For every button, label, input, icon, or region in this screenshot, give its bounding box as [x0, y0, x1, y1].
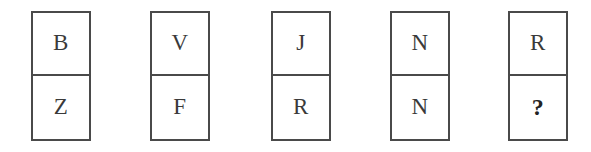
domino-card-1: B Z	[31, 11, 91, 141]
card-2-top-letter: V	[171, 31, 188, 54]
domino-card-2: V F	[150, 11, 210, 141]
card-4-top-letter: N	[411, 31, 428, 54]
card-5-top-cell: R	[510, 13, 566, 76]
card-1-top-cell: B	[33, 13, 89, 76]
card-5-unknown-marker: ?	[532, 95, 545, 119]
domino-card-5: R ?	[508, 11, 568, 141]
card-4-bottom-letter: N	[411, 95, 428, 118]
card-5-top-letter: R	[530, 31, 546, 54]
domino-card-3: J R	[271, 11, 331, 141]
card-4-bottom-cell: N	[392, 76, 448, 139]
card-1-bottom-letter: Z	[54, 95, 69, 118]
card-2-bottom-cell: F	[152, 76, 208, 139]
puzzle-canvas: B Z V F J R N N R ?	[0, 0, 591, 152]
card-3-bottom-letter: R	[293, 95, 309, 118]
card-3-bottom-cell: R	[273, 76, 329, 139]
card-2-bottom-letter: F	[173, 95, 186, 118]
card-3-top-cell: J	[273, 13, 329, 76]
domino-card-4: N N	[390, 11, 450, 141]
card-1-top-letter: B	[53, 31, 69, 54]
card-5-bottom-cell: ?	[510, 76, 566, 139]
card-4-top-cell: N	[392, 13, 448, 76]
card-2-top-cell: V	[152, 13, 208, 76]
card-3-top-letter: J	[296, 31, 305, 54]
card-1-bottom-cell: Z	[33, 76, 89, 139]
